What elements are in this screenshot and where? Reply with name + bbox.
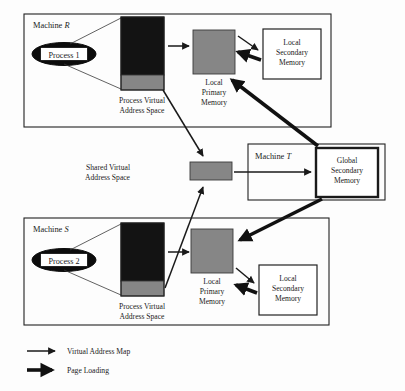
process-2-label: Process 2 (48, 257, 79, 266)
process-2-vas-caption-line1: Process Virtual (119, 302, 165, 311)
local-secondary-memory-r-caption-line2: Secondary (276, 48, 308, 57)
local-primary-memory-r-caption-line3: Memory (201, 98, 227, 107)
process-2-vas-caption-line2: Address Space (120, 312, 166, 321)
arrow-global-to-primary1-page-load (232, 80, 318, 146)
process-2-leader-bottom (64, 270, 121, 295)
global-secondary-memory-caption-line1: Global (337, 156, 358, 165)
machine-r-label: Machine R (33, 21, 70, 30)
process-1-leader-bottom (64, 64, 121, 89)
local-secondary-memory-s-caption-line3: Memory (275, 294, 301, 303)
local-secondary-memory-r-caption-line3: Memory (279, 58, 305, 67)
process-1-vas-shared-region (121, 75, 164, 90)
global-secondary-memory-caption-line2: Secondary (331, 166, 363, 175)
arrow-primary2-to-secondary2 (236, 268, 254, 283)
diagram-canvas: Machine R Process 1 Process Virtual Addr… (0, 0, 405, 391)
legend-label-virtual-address-map: Virtual Address Map (67, 347, 130, 356)
local-secondary-memory-s-caption-line2: Secondary (272, 284, 304, 293)
local-primary-memory-s-caption-line1: Local (203, 277, 220, 286)
local-primary-memory-s (191, 229, 233, 273)
local-secondary-memory-r-caption-line1: Local (283, 38, 300, 47)
process-2-vas-code-region (121, 223, 164, 281)
shared-virtual-address-space-block (190, 162, 232, 180)
shared-virtual-memory-diagram: Machine R Process 1 Process Virtual Addr… (0, 0, 405, 391)
arrow-secondary2-to-primary2-page-load (236, 285, 257, 293)
process-1-leader-top (70, 18, 121, 44)
local-primary-memory-r (193, 30, 235, 74)
process-1-vas-caption-line1: Process Virtual (119, 96, 165, 105)
shared-vas-caption-line1: Shared Virtual (86, 163, 130, 172)
machine-s-label: Machine S (33, 225, 69, 234)
shared-vas-caption-line2: Address Space (85, 173, 131, 182)
process-2-leader-top (70, 224, 121, 250)
arrow-secondary1-to-primary1-page-load (238, 52, 261, 60)
local-primary-memory-r-caption-line1: Local (205, 78, 222, 87)
arrow-primary1-to-secondary1 (238, 36, 258, 50)
process-1-vas-code-region (121, 17, 164, 75)
global-secondary-memory-caption-line3: Memory (334, 176, 360, 185)
process-2-vas-shared-region (121, 281, 164, 296)
arrow-vas1-to-shared-vas (163, 90, 203, 156)
process-1-label: Process 1 (48, 51, 79, 60)
process-1-vas-caption-line2: Address Space (120, 106, 166, 115)
local-primary-memory-s-caption-line2: Primary (200, 287, 225, 296)
arrow-global-to-primary2-page-load (240, 199, 322, 240)
local-secondary-memory-s-caption-line1: Local (279, 274, 296, 283)
legend-label-page-loading: Page Loading (67, 366, 109, 375)
machine-t-label: Machine T (255, 152, 292, 161)
local-primary-memory-r-caption-line2: Primary (202, 88, 227, 97)
local-primary-memory-s-caption-line3: Memory (199, 297, 225, 306)
